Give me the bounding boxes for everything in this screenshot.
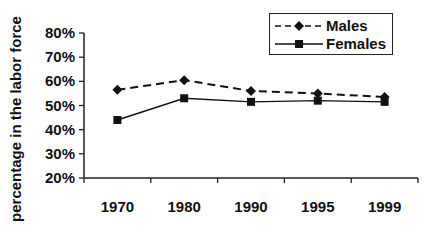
legend-item-females: Females <box>270 35 394 53</box>
square-marker <box>113 116 121 124</box>
y-axis-title-wrap: percentage in the labor force <box>0 0 30 237</box>
y-tick-label: 50% <box>30 98 75 114</box>
x-tick-label: 1990 <box>221 198 281 215</box>
y-tick-label: 40% <box>30 122 75 138</box>
y-axis-title: percentage in the labor force <box>7 16 24 222</box>
data-series <box>112 75 389 124</box>
y-tick-label: 70% <box>30 49 75 65</box>
legend-item-males: Males <box>270 17 394 35</box>
legend-label: Females <box>326 35 386 53</box>
solid-line-square-icon <box>275 38 323 50</box>
y-tick-label: 20% <box>30 170 75 186</box>
diamond-marker <box>246 86 256 96</box>
legend-label: Males <box>326 17 368 35</box>
diamond-marker <box>179 75 189 85</box>
x-tick-label: 1999 <box>355 198 415 215</box>
diamond-marker <box>112 85 122 95</box>
square-marker <box>180 94 188 102</box>
x-tick-label: 1980 <box>154 198 214 215</box>
y-tick-label: 30% <box>30 146 75 162</box>
square-marker <box>247 98 255 106</box>
x-tick-label: 1995 <box>288 198 348 215</box>
legend: Males Females <box>269 13 393 55</box>
square-marker <box>314 97 322 105</box>
square-marker <box>381 98 389 106</box>
y-tick-label: 60% <box>30 73 75 89</box>
x-tick-label: 1970 <box>87 198 147 215</box>
y-tick-label: 80% <box>30 25 75 41</box>
dashed-line-diamond-icon <box>275 20 323 32</box>
